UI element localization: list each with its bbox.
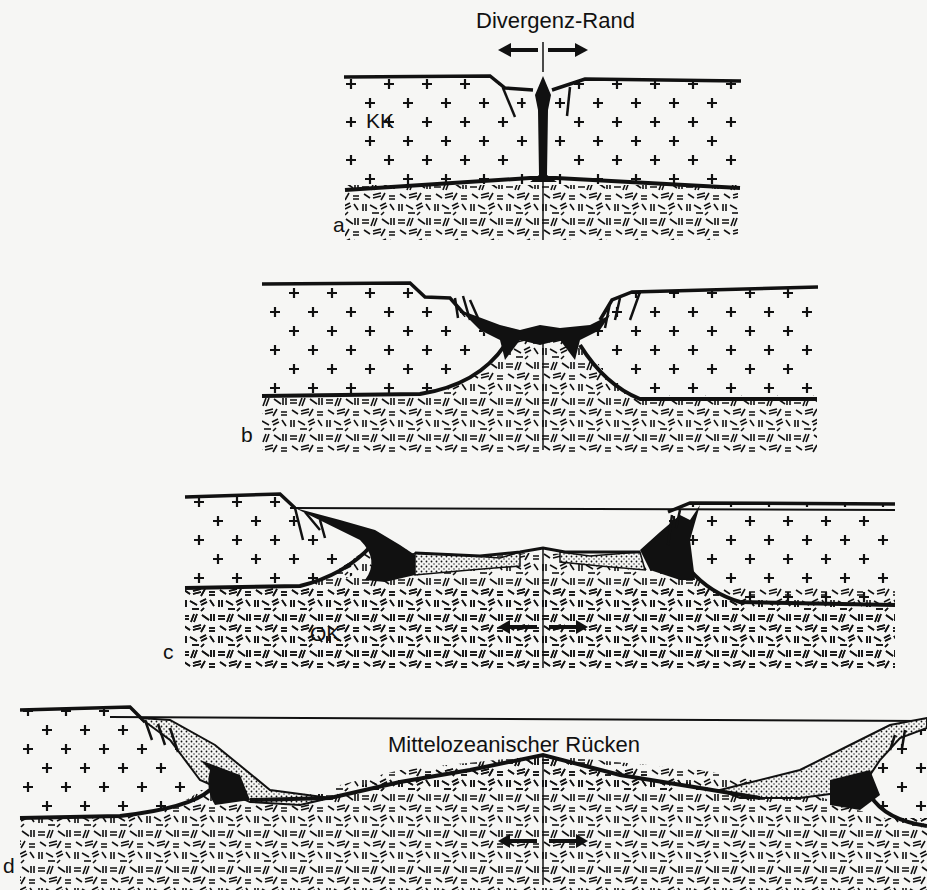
panel-letter-b: b (241, 424, 253, 445)
panel-letter-d: d (3, 855, 15, 876)
continental-crust-a-right (553, 79, 740, 190)
panel-letter-a: a (333, 214, 345, 235)
continental-crust-a-left (345, 76, 530, 190)
label-divergent-margin: Divergenz-Rand (476, 10, 635, 32)
panel-b (262, 283, 818, 453)
label-oceanic-crust: OK (310, 623, 340, 644)
label-continental-crust: KK (366, 110, 394, 131)
label-mid-ocean-ridge: Mittelozeanischer Rücken (388, 734, 640, 756)
panel-letter-c: c (163, 641, 174, 662)
spreading-arrows-top (498, 42, 588, 72)
panel-a (344, 42, 741, 240)
mantle-a (345, 185, 738, 240)
panel-c (185, 494, 895, 670)
